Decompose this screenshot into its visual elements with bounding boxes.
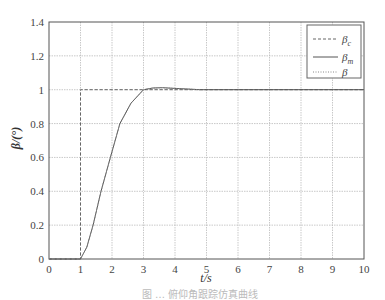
x-tick-label: 7	[267, 263, 273, 275]
legend: βcβmβ	[307, 25, 361, 78]
x-tick-label: 0	[46, 263, 52, 275]
y-tick-label: 0.2	[30, 219, 44, 231]
y-tick-label: 0	[39, 253, 45, 265]
y-tick-label: 1.4	[30, 16, 44, 28]
x-tick-label: 8	[298, 263, 304, 275]
y-tick-label: 0.6	[30, 151, 44, 163]
y-tick-label: 1.2	[30, 50, 44, 62]
y-axis-ticks: 00.20.40.60.811.21.4	[30, 16, 44, 265]
legend-box	[307, 25, 361, 78]
x-tick-label: 4	[172, 263, 178, 275]
legend-label: β	[341, 66, 348, 78]
x-tick-label: 10	[359, 263, 371, 275]
y-tick-label: 0.4	[30, 185, 44, 197]
x-axis-label: t/s	[200, 271, 212, 285]
y-axis-label: β/(°)	[9, 127, 23, 150]
figure-caption: 图 … 俯仰角跟踪仿真曲线	[142, 288, 258, 300]
series-line-2	[49, 88, 200, 259]
x-tick-label: 2	[109, 263, 115, 275]
x-tick-label: 1	[78, 263, 84, 275]
x-tick-label: 6	[235, 263, 241, 275]
y-tick-label: 1	[39, 84, 45, 96]
line-chart: 012345678910 00.20.40.60.811.21.4 t/s β/…	[0, 0, 385, 300]
x-tick-label: 3	[141, 263, 147, 275]
x-tick-label: 9	[330, 263, 336, 275]
y-tick-label: 0.8	[30, 118, 44, 130]
